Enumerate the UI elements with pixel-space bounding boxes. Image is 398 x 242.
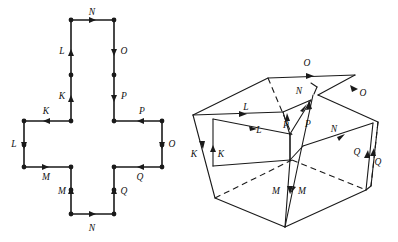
vertex-dot	[112, 188, 117, 193]
net-labels: N L O K P K P L O M Q M Q N	[10, 7, 175, 233]
arrow-p-upper	[111, 95, 117, 102]
solid-label-m-left: M	[271, 186, 281, 196]
cross-net-panel: N L O K P K P L O M Q M Q N	[10, 7, 175, 233]
net-label-k-left: K	[42, 106, 50, 116]
arrow-l-upper	[68, 49, 74, 56]
vertex-dot	[160, 119, 165, 124]
solid-edge-front-left-vert	[213, 160, 290, 166]
vertex-dot	[112, 119, 117, 124]
figure-canvas: N L O K P K P L O M Q M Q N	[0, 0, 398, 242]
net-label-l-upper: L	[58, 46, 64, 56]
vertex-dot	[69, 119, 74, 124]
figure-root: N L O K P K P L O M Q M Q N	[0, 0, 398, 242]
arrow-k-left	[43, 118, 50, 124]
solid-label-n-top: N	[295, 86, 303, 96]
vertex-dot	[22, 143, 27, 148]
solid-labels: O L N O L P P N K K Q Q M M	[190, 58, 382, 196]
vertex-dot	[112, 165, 117, 170]
vertex-dot	[69, 73, 74, 78]
net-label-m-lovert: M	[57, 186, 67, 196]
vertex-dot	[22, 119, 27, 124]
solid-label-k-outer: K	[190, 149, 198, 159]
solid-label-l-top: L	[242, 102, 248, 112]
solid-edge-l-top	[193, 112, 283, 115]
solid-label-k-inner: K	[217, 149, 225, 159]
solid-label-o-top: O	[304, 58, 311, 68]
arrow-q-right	[137, 164, 144, 170]
net-label-q-right: Q	[137, 172, 144, 182]
solid-edge-l-front	[213, 119, 290, 134]
solid-label-q-left: Q	[354, 147, 361, 157]
net-arrowheads	[21, 17, 165, 217]
net-label-n-top: N	[88, 7, 96, 17]
solid-edge-notch-a	[311, 83, 317, 87]
vertex-dot	[69, 165, 74, 170]
solid-edge-notch-b	[314, 87, 317, 94]
arrow-n-top	[89, 17, 96, 23]
arrow-o-top	[306, 73, 314, 79]
solid-label-o-right: O	[360, 88, 367, 98]
net-label-o-upper: O	[121, 46, 128, 56]
vertex-dot	[112, 18, 117, 23]
vertex-dot	[69, 188, 74, 193]
arrow-n-front	[337, 134, 345, 141]
net-label-l-left: L	[10, 139, 16, 149]
arrow-p-right	[137, 118, 144, 124]
solid-label-q-right: Q	[375, 157, 382, 167]
arrow-k-upper	[68, 95, 74, 102]
arrow-n-bottom	[89, 211, 96, 217]
arrow-m-left	[42, 164, 49, 170]
net-label-n-bottom: N	[88, 223, 96, 233]
net-label-q-lovert: Q	[121, 186, 128, 196]
vertex-dot	[112, 212, 117, 217]
net-label-p-upvert: P	[120, 91, 127, 101]
solid-edge-dashed-floor-left	[215, 160, 292, 198]
net-edges	[24, 20, 162, 214]
vertex-dot	[160, 165, 165, 170]
solid-edge-o-right-lower	[318, 95, 378, 122]
net-label-p-right: P	[138, 106, 145, 116]
solid-edge-topleft-back	[193, 78, 268, 115]
solid-label-n-front: N	[330, 124, 338, 134]
arrow-o-upper	[111, 49, 117, 56]
arrow-o-right	[350, 85, 358, 92]
vertex-dot	[112, 73, 117, 78]
net-label-o-right: O	[169, 139, 176, 149]
vertex-dot	[160, 143, 165, 148]
solid-edge-bottom-left	[215, 198, 285, 227]
solid-label-p-left: P	[282, 120, 289, 130]
arrow-q-outer	[364, 150, 370, 158]
folded-box-panel: O L N O L P P N K K Q Q M M	[190, 58, 382, 227]
net-label-k-upvert: K	[58, 91, 66, 101]
solid-edge-o-right-upper	[318, 75, 355, 95]
solid-edge-n-front	[303, 123, 373, 146]
vertex-dot	[69, 212, 74, 217]
solid-label-m-right: M	[297, 186, 307, 196]
arrow-k-inner	[210, 145, 216, 152]
vertex-dot	[69, 18, 74, 23]
solid-label-p-right: P	[304, 119, 311, 129]
net-label-m-left: M	[41, 172, 51, 182]
solid-label-l-front: L	[255, 125, 261, 135]
vertex-dot	[22, 165, 27, 170]
net-vertices	[22, 18, 165, 217]
